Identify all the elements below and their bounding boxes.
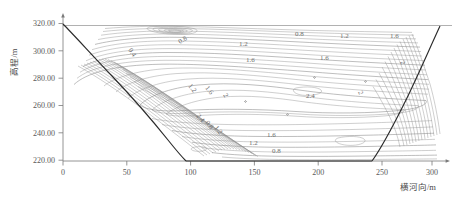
- contour-label-19: 0.8: [272, 147, 281, 155]
- contour-label-5: 1.6: [390, 32, 399, 40]
- y-tick-label-300: 300.00: [33, 47, 55, 56]
- x-tick-label-300: 300: [426, 168, 438, 177]
- y-axis: 320.00 300.00 280.00 260.00 240.00 220.0…: [9, 13, 65, 165]
- x-tick-label-200: 200: [312, 168, 324, 177]
- x-tick-label-100: 100: [185, 168, 197, 177]
- contour-chart-figure: 320.00 300.00 280.00 260.00 240.00 220.0…: [0, 0, 468, 201]
- x-axis-arrow: [446, 159, 450, 163]
- contour-plot-svg: 320.00 300.00 280.00 260.00 240.00 220.0…: [0, 0, 468, 201]
- contour-top-7: [89, 45, 422, 56]
- contour-label-4: 1.2: [340, 32, 349, 40]
- contour-label-2: 1.2: [239, 40, 248, 48]
- contour-low-6: [202, 148, 436, 153]
- y-tick-label-240: 240.00: [33, 129, 55, 138]
- contour-label-0: 0.4: [126, 47, 138, 59]
- x-tick-label-50: 50: [123, 168, 131, 177]
- x-axis: 0 50 100 150 200 250 300 横河向/m: [61, 159, 450, 192]
- y-tick-label-280: 280.00: [33, 74, 55, 83]
- x-axis-title: 横河向/m: [400, 182, 436, 192]
- contour-low-1: [152, 119, 432, 125]
- contour-label-6: 1.6: [246, 56, 255, 64]
- contour-top-6: [92, 41, 421, 52]
- contour-mid-4: [116, 73, 429, 92]
- contour-label-12: 2.4: [306, 92, 315, 100]
- contour-label-11: 2: [221, 92, 230, 100]
- y-tick-label-320: 320.00: [33, 19, 55, 28]
- contour-label-8: 2: [398, 59, 407, 66]
- contour-low-8: [222, 157, 437, 160]
- contour-0p8-lower: [212, 153, 437, 157]
- y-axis-arrow: [61, 13, 65, 17]
- contour-label-17: 1.6: [267, 131, 276, 139]
- y-axis-title: 高程/m: [9, 48, 19, 75]
- contour-label-3: 0.8: [295, 30, 304, 38]
- x-tick-label-250: 250: [376, 168, 388, 177]
- contour-low-4: [182, 137, 435, 143]
- contour-mid-5: [128, 78, 428, 98]
- left-bank-contour-bundle: [78, 59, 258, 157]
- contour-top-1: [105, 26, 412, 32]
- x-tick-label-150: 150: [248, 168, 260, 177]
- contour-label-13: 2: [356, 90, 365, 97]
- contour-pocket-left: [191, 147, 206, 152]
- contour-pocket-right: [335, 136, 365, 145]
- contour-label-10: 1.6: [203, 84, 215, 96]
- contour-label-7: 1.6: [320, 54, 329, 62]
- y-tick-label-260: 260.00: [33, 101, 55, 110]
- y-tick-label-220: 220.00: [33, 156, 55, 165]
- contour-label-18: 1.2: [249, 139, 258, 147]
- x-tick-label-0: 0: [61, 168, 65, 177]
- contour-label-1: 0.8: [177, 34, 189, 46]
